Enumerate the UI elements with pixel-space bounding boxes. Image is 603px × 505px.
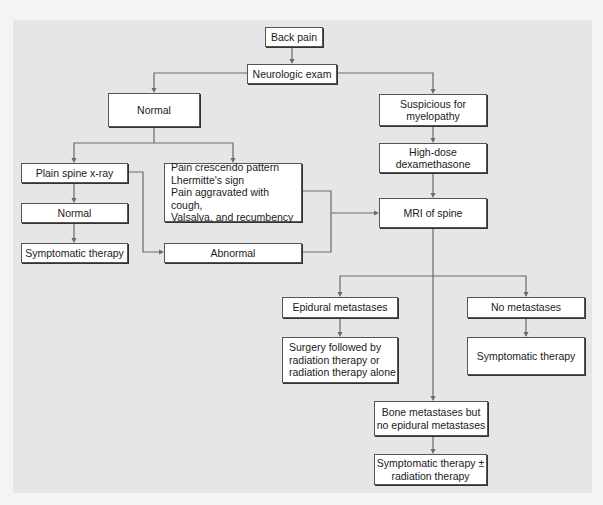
node-high-dose-dexamethasone: High-dose dexamethasone <box>379 143 487 173</box>
node-abnormal: Abnormal <box>164 243 302 263</box>
node-normal-exam: Normal <box>108 93 200 127</box>
node-surgery-radiation: Surgery followed by radiation therapy or… <box>282 337 398 383</box>
node-symptomatic-therapy-right: Symptomatic therapy <box>467 337 585 375</box>
node-back-pain: Back pain <box>265 27 323 47</box>
node-symptomatic-radiation: Symptomatic therapy ± radiation therapy <box>374 454 487 485</box>
node-symptomatic-therapy-left: Symptomatic therapy <box>21 243 128 263</box>
node-bone-metastases: Bone metastases but no epidural metastas… <box>374 401 488 436</box>
node-no-metastases: No metastases <box>467 297 585 318</box>
node-suspicious-myelopathy: Suspicious for myelopathy <box>379 94 487 126</box>
node-neurologic-exam: Neurologic exam <box>247 64 337 84</box>
node-red-flag-symptoms: Pain crescendo pattern Lhermitte's sign … <box>164 163 302 222</box>
node-mri-of-spine: MRI of spine <box>379 198 487 228</box>
node-plain-spine-xray: Plain spine x-ray <box>21 163 128 183</box>
node-xray-normal: Normal <box>21 203 128 223</box>
node-epidural-metastases: Epidural metastases <box>282 297 398 318</box>
